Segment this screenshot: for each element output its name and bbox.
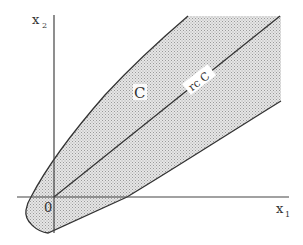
region-c-label: C: [134, 84, 145, 102]
origin-label: 0: [44, 200, 52, 215]
x2-axis-label-sub: 2: [42, 21, 47, 30]
x1-axis-label-sub: 1: [285, 210, 290, 219]
x2-axis-label: x: [32, 12, 40, 27]
x1-axis-label: x: [276, 201, 284, 216]
convex-set-diagram: rc C C x 2 x 1 0: [0, 0, 303, 245]
